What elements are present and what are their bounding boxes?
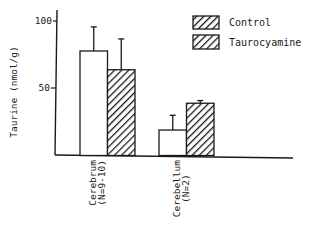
bar-rect bbox=[108, 70, 136, 156]
legend-label-taurocyamine: Taurocyamine bbox=[229, 37, 301, 48]
category-labels: Cerebrum(N=9-10)Cerebellum(N=2) bbox=[87, 160, 191, 217]
legend: Control Taurocyamine bbox=[193, 16, 301, 49]
bar-cerebellum-taurocyamine bbox=[187, 101, 215, 156]
category-label-cerebrum: Cerebrum(N=9-10) bbox=[87, 160, 107, 206]
legend-swatch-taurocyamine bbox=[193, 35, 219, 49]
bar-cerebrum-control bbox=[80, 27, 108, 156]
legend-item-taurocyamine: Taurocyamine bbox=[193, 35, 301, 49]
y-tick-label-100: 100 bbox=[35, 15, 52, 26]
legend-item-control: Control bbox=[193, 16, 271, 29]
bar-cerebrum-taurocyamine bbox=[108, 39, 136, 156]
bar-cerebellum-control bbox=[159, 115, 187, 155]
bar-rect bbox=[159, 130, 187, 155]
y-axis-label: Taurine (nmol/g) bbox=[8, 46, 19, 138]
y-tick-label-50: 50 bbox=[39, 82, 51, 93]
bar-chart: Taurine (nmol/g) 100 50 Cerebrum(N=9-10)… bbox=[0, 0, 317, 231]
legend-swatch-control bbox=[193, 16, 219, 29]
y-axis bbox=[51, 10, 57, 155]
category-label-cerebellum: Cerebellum(N=2) bbox=[171, 160, 191, 217]
legend-label-control: Control bbox=[229, 17, 271, 28]
bar-rect bbox=[80, 51, 108, 156]
bar-rect bbox=[187, 103, 215, 155]
